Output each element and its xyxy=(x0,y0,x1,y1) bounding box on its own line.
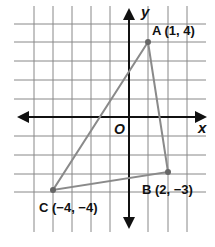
coordinate-plane: y x O A (1, 4) B (2, −3) C (−4, −4) xyxy=(0,0,215,247)
point-a xyxy=(145,39,151,45)
origin-label: O xyxy=(114,121,125,137)
x-axis-label: x xyxy=(197,119,207,136)
y-axis-label: y xyxy=(140,3,150,20)
point-a-label: A (1, 4) xyxy=(152,23,195,38)
point-c-label: C (−4, −4) xyxy=(39,200,98,215)
point-c xyxy=(50,187,56,193)
x-axis-left-arrow-icon xyxy=(17,111,29,123)
y-axis-up-arrow-icon xyxy=(123,8,135,20)
grid-lines xyxy=(14,6,206,232)
y-axis-down-arrow-icon xyxy=(123,217,135,229)
point-b-label: B (2, −3) xyxy=(142,182,193,197)
point-b xyxy=(165,169,171,175)
